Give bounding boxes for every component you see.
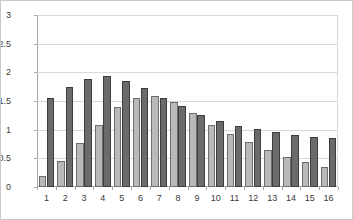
bar-series-a-13[interactable] [264,150,272,187]
bar-group [283,15,299,187]
x-tick-mark [338,187,339,190]
bar-group [189,15,205,187]
x-tick-mark [188,187,189,190]
y-tick-label: 1.5 [0,96,11,106]
x-tick-mark [319,187,320,190]
bar-group [39,15,55,187]
y-tick-label: 3 [0,10,11,20]
x-tick-label-16: 16 [318,193,340,203]
bar-series-b-15[interactable] [310,137,318,187]
bar-series-a-4[interactable] [95,125,103,187]
x-tick-mark [131,187,132,190]
bar-series-b-7[interactable] [160,98,168,187]
bar-series-a-16[interactable] [321,167,329,187]
bar-group [208,15,224,187]
bar-group [151,15,167,187]
bar-series-a-5[interactable] [114,107,122,187]
bar-group [321,15,337,187]
bar-series-b-16[interactable] [329,138,337,187]
bar-chart: 00.511.522.53 12345678910111213141516 [0,0,353,220]
bar-series-b-12[interactable] [254,129,262,187]
bar-group [227,15,243,187]
bar-series-a-15[interactable] [302,162,310,187]
x-tick-mark [263,187,264,190]
bar-group [114,15,130,187]
x-tick-mark [93,187,94,190]
bar-series-b-1[interactable] [47,98,55,187]
bar-group [302,15,318,187]
bar-group [245,15,261,187]
x-tick-mark [150,187,151,190]
bar-group [264,15,280,187]
bar-series-a-10[interactable] [208,125,216,187]
x-tick-mark [300,187,301,190]
bar-series-b-5[interactable] [122,81,130,187]
y-tick-label: 1 [0,125,11,135]
y-tick-label: 0.5 [0,153,11,163]
y-tick-label: 0 [0,182,11,192]
bar-series-a-11[interactable] [227,134,235,187]
bar-group [76,15,92,187]
bar-series-a-12[interactable] [245,142,253,187]
bar-series-b-10[interactable] [216,121,224,187]
y-tick-label: 2 [0,67,11,77]
bar-group [133,15,149,187]
bar-series-b-14[interactable] [291,135,299,187]
bar-series-a-7[interactable] [151,96,159,187]
bar-series-a-14[interactable] [283,157,291,187]
bar-series-b-2[interactable] [66,87,74,187]
bar-series-b-6[interactable] [141,88,149,187]
x-tick-mark [206,187,207,190]
bar-series-b-11[interactable] [235,126,243,187]
bar-series-b-3[interactable] [84,79,92,187]
bar-series-b-4[interactable] [103,76,111,187]
x-tick-mark [56,187,57,190]
bar-series-a-1[interactable] [39,176,47,187]
bar-series-a-9[interactable] [189,113,197,187]
bar-series-b-8[interactable] [178,106,186,187]
bars-layer [37,15,338,187]
y-tick-label: 2.5 [0,39,11,49]
bar-group [57,15,73,187]
x-tick-mark [112,187,113,190]
bar-series-b-9[interactable] [197,115,205,187]
x-tick-mark [75,187,76,190]
x-tick-mark [37,187,38,190]
bar-group [170,15,186,187]
bar-series-a-2[interactable] [57,161,65,187]
x-tick-mark [225,187,226,190]
bar-series-a-8[interactable] [170,102,178,187]
bar-series-b-13[interactable] [272,132,280,187]
x-tick-mark [282,187,283,190]
bar-series-a-3[interactable] [76,143,84,187]
bar-series-a-6[interactable] [133,98,141,187]
x-tick-mark [169,187,170,190]
x-tick-mark [244,187,245,190]
bar-group [95,15,111,187]
